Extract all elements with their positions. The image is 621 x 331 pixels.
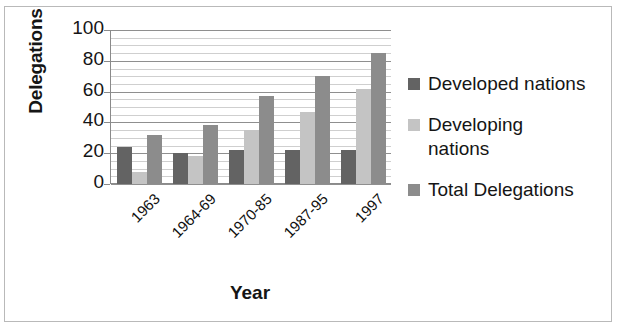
y-tick-label: 40 bbox=[32, 109, 104, 131]
y-tick-label: 20 bbox=[32, 140, 104, 162]
x-tick-label: 1964-69 bbox=[165, 190, 219, 244]
y-axis-tick-labels: 020406080100 bbox=[20, 0, 104, 200]
bar bbox=[341, 150, 356, 184]
bar bbox=[173, 153, 188, 184]
legend-label: Developed nations bbox=[428, 72, 585, 96]
bar-group bbox=[223, 30, 279, 184]
bar bbox=[203, 125, 218, 184]
legend-swatch-icon bbox=[408, 184, 420, 196]
bar bbox=[300, 112, 315, 184]
bar bbox=[117, 147, 132, 184]
x-tick-label: 1970-85 bbox=[221, 190, 275, 244]
bar-group bbox=[111, 30, 167, 184]
bar bbox=[229, 150, 244, 184]
y-tick-label: 60 bbox=[32, 79, 104, 101]
bar bbox=[147, 135, 162, 184]
bar-group bbox=[167, 30, 223, 184]
bar-chart: Delegations 020406080100 19631964-691970… bbox=[0, 0, 621, 331]
legend-item: Developed nations bbox=[408, 72, 608, 96]
x-axis-title: Year bbox=[140, 282, 360, 304]
bar-group bbox=[335, 30, 391, 184]
x-tick-label: 1987-95 bbox=[277, 190, 331, 244]
y-tick-mark bbox=[104, 122, 110, 123]
y-tick-label: 0 bbox=[32, 171, 104, 193]
bar bbox=[315, 76, 330, 184]
x-axis-tick-labels: 19631964-691970-851987-951997 bbox=[111, 186, 391, 246]
bar-groups bbox=[111, 30, 391, 184]
bar bbox=[132, 172, 147, 184]
bar bbox=[259, 96, 274, 184]
legend-item: Total Delegations bbox=[408, 178, 608, 202]
bar bbox=[356, 89, 371, 184]
y-tick-mark bbox=[104, 92, 110, 93]
legend-label: Developing nations bbox=[428, 113, 588, 161]
chart-legend: Developed nationsDeveloping nationsTotal… bbox=[408, 72, 608, 219]
y-tick-label: 100 bbox=[32, 17, 104, 39]
legend-swatch-icon bbox=[408, 119, 420, 131]
y-tick-mark bbox=[104, 61, 110, 62]
y-tick-label: 80 bbox=[32, 48, 104, 70]
bar bbox=[188, 156, 203, 184]
gridline-major bbox=[111, 184, 391, 185]
bar bbox=[244, 130, 259, 184]
legend-item: Developing nations bbox=[408, 113, 608, 161]
y-tick-mark bbox=[104, 153, 110, 154]
y-tick-mark bbox=[104, 30, 110, 31]
bar bbox=[285, 150, 300, 184]
x-tick-label: 1963 bbox=[109, 190, 163, 244]
legend-swatch-icon bbox=[408, 78, 420, 90]
y-tick-mark bbox=[104, 184, 110, 185]
bar bbox=[371, 53, 386, 184]
x-tick-label: 1997 bbox=[333, 190, 387, 244]
bar-group bbox=[279, 30, 335, 184]
legend-label: Total Delegations bbox=[428, 178, 574, 202]
